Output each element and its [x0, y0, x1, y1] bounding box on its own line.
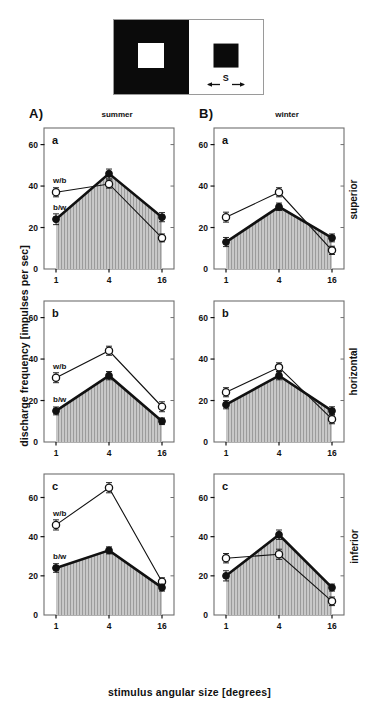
data-point-b/w-1: [223, 401, 230, 409]
x-tick-label: 1: [54, 448, 59, 458]
chart-svg-B-a: 02040601416a: [192, 124, 357, 296]
data-point-w/b-1: [222, 554, 229, 563]
figure-root: S A) B) summer winter discharge frequenc…: [0, 0, 379, 716]
shaded-area-b/w: [226, 376, 332, 442]
x-tick-label: 16: [327, 275, 337, 285]
series-label-b-over-w: b/w: [53, 203, 67, 212]
plot-winter-horizontal: 02040601416b: [192, 297, 357, 469]
data-point-b/w-4: [106, 372, 113, 380]
data-point-w/b-1: [222, 212, 229, 222]
data-point-w/b-1: [52, 373, 59, 383]
x-tick-label: 4: [277, 621, 282, 631]
x-axis-title: stimulus angular size [degrees]: [0, 686, 379, 698]
x-tick-label: 1: [224, 448, 229, 458]
data-point-b/w-16: [159, 418, 166, 425]
subpanel-letter: b: [52, 307, 59, 319]
stimulus-inner-square-white: [138, 43, 164, 68]
stimulus-patch-white-on-black: [114, 20, 189, 94]
series-label-b-over-w: b/w: [53, 552, 67, 561]
subpanel-letter: a: [52, 134, 59, 146]
panel-letter-b: B): [199, 106, 213, 121]
x-tick-label: 1: [224, 621, 229, 631]
x-tick-label: 4: [107, 448, 112, 458]
plot-summer-inferior: 02040601416cw/bb/w: [22, 470, 187, 642]
x-tick-label: 1: [54, 621, 59, 631]
data-point-w/b-16: [328, 246, 335, 254]
y-tick-label: 60: [29, 140, 39, 150]
y-tick-label: 40: [199, 181, 209, 191]
y-tick-label: 40: [199, 532, 209, 542]
column-title-winter: winter: [232, 110, 342, 119]
data-point-w/b-4: [105, 180, 112, 188]
subpanel-letter: b: [222, 307, 229, 319]
data-point-b/w-16: [159, 584, 166, 591]
y-tick-label: 40: [29, 181, 39, 191]
plot-winter-superior: 02040601416a: [192, 124, 357, 296]
data-point-b/w-1: [53, 564, 60, 573]
chart-svg-B-b: 02040601416b: [192, 297, 357, 469]
y-tick-label: 0: [203, 437, 208, 447]
subpanel-letter: c: [52, 480, 58, 492]
y-tick-label: 40: [29, 354, 39, 364]
y-tick-label: 20: [29, 396, 39, 406]
data-point-w/b-16: [158, 234, 165, 242]
shaded-area-b/w: [56, 550, 162, 615]
y-tick-label: 40: [199, 354, 209, 364]
data-point-w/b-16: [158, 402, 165, 412]
y-tick-label: 0: [203, 264, 208, 274]
x-tick-label: 16: [157, 448, 167, 458]
panel-letter-a: A): [29, 106, 43, 121]
chart-svg-A-c: 02040601416cw/bb/w: [22, 470, 187, 642]
x-tick-label: 16: [157, 621, 167, 631]
series-label-w-over-b: w/b: [52, 509, 66, 518]
shaded-area-b/w: [226, 207, 332, 269]
stimulus-size-label: S: [223, 73, 229, 84]
column-title-summer: summer: [62, 110, 172, 119]
stimulus-patch-black-on-white: S: [189, 20, 264, 94]
data-point-w/b-1: [52, 520, 59, 530]
y-tick-label: 20: [199, 396, 209, 406]
data-point-w/b-1: [52, 188, 59, 197]
plot-winter-inferior: 02040601416c: [192, 470, 357, 642]
y-tick-label: 0: [203, 610, 208, 620]
plot-summer-superior: 02040601416aw/bb/w: [22, 124, 187, 296]
x-tick-label: 4: [107, 621, 112, 631]
series-label-b-over-w: b/w: [53, 395, 67, 404]
y-tick-label: 40: [29, 532, 39, 542]
y-tick-label: 0: [33, 437, 38, 447]
chart-svg-A-a: 02040601416aw/bb/w: [22, 124, 187, 296]
y-tick-label: 0: [33, 610, 38, 620]
y-tick-label: 20: [199, 571, 209, 581]
y-tick-label: 60: [199, 493, 209, 503]
data-point-w/b-16: [328, 415, 335, 424]
x-tick-label: 4: [107, 275, 112, 285]
data-point-b/w-16: [329, 584, 336, 591]
x-tick-label: 16: [327, 621, 337, 631]
y-tick-label: 0: [33, 264, 38, 274]
y-tick-label: 20: [29, 571, 39, 581]
stimulus-inner-square-black: [213, 44, 238, 68]
subpanel-letter: a: [222, 134, 229, 146]
subpanel-letter: c: [222, 480, 228, 492]
shaded-area-b/w: [226, 535, 332, 615]
x-tick-label: 1: [54, 275, 59, 285]
data-point-b/w-4: [276, 372, 283, 380]
y-tick-label: 60: [199, 140, 209, 150]
chart-svg-B-c: 02040601416c: [192, 470, 357, 642]
data-point-b/w-4: [276, 203, 283, 210]
y-tick-label: 60: [29, 313, 39, 323]
data-point-w/b-4: [105, 346, 112, 355]
x-tick-label: 4: [277, 275, 282, 285]
data-point-w/b-4: [275, 188, 282, 197]
data-point-b/w-16: [329, 407, 336, 415]
y-tick-label: 60: [29, 493, 39, 503]
series-label-w-over-b: w/b: [52, 362, 66, 371]
plot-summer-horizontal: 02040601416bw/bb/w: [22, 297, 187, 469]
y-tick-label: 20: [199, 223, 209, 233]
x-tick-label: 16: [327, 448, 337, 458]
stimulus-size-marker: S: [206, 76, 246, 87]
stimulus-diagram: S: [113, 19, 264, 95]
chart-svg-A-b: 02040601416bw/bb/w: [22, 297, 187, 469]
data-point-b/w-16: [329, 234, 336, 242]
series-label-w-over-b: w/b: [52, 176, 66, 185]
